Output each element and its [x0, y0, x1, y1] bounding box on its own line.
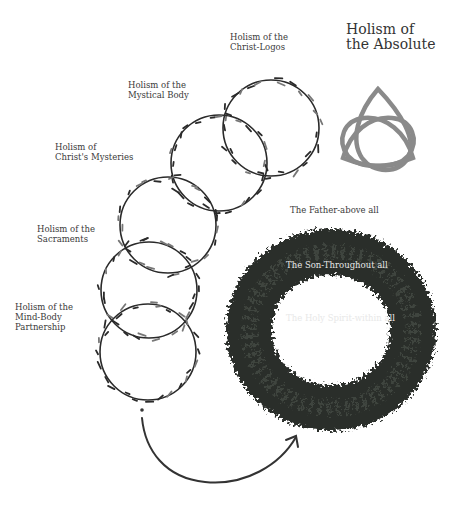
leaf — [230, 149, 232, 153]
leaf — [138, 333, 145, 336]
leaf — [299, 91, 302, 95]
leaf — [172, 189, 179, 193]
label-mind-body: Holism of the Mind-Body Partnership — [15, 302, 73, 332]
label-son: The Son-Throughout all — [286, 260, 388, 270]
curved-arrow-icon — [141, 409, 298, 482]
leaf — [98, 362, 101, 369]
vine-circle-sacraments — [98, 238, 200, 341]
leaf — [211, 117, 215, 118]
leaf — [320, 120, 322, 125]
evergreen-wreath — [249, 252, 413, 408]
leaf — [167, 310, 171, 312]
leaf — [96, 350, 98, 354]
leaf — [186, 320, 187, 324]
leaf — [113, 257, 114, 261]
leaf — [216, 116, 222, 117]
leaf — [119, 241, 123, 246]
leaf — [186, 376, 187, 381]
leaf — [104, 320, 105, 327]
vine-circle-mystical-body — [170, 113, 268, 213]
leaf — [125, 241, 129, 246]
vine-circle-christs-mysteries — [118, 175, 218, 277]
leaf — [203, 204, 209, 208]
leaf — [156, 306, 160, 307]
triquetra-icon — [342, 89, 413, 170]
leaf — [190, 303, 193, 309]
leaf — [143, 238, 148, 240]
label-sacraments: Holism of the Sacraments — [37, 224, 95, 244]
leaf — [175, 145, 177, 150]
label-father: The Father-above all — [290, 205, 379, 215]
leaf — [98, 285, 99, 289]
leaf — [181, 251, 186, 253]
title-holism-absolute: Holism of the Absolute — [346, 22, 435, 52]
leaf — [198, 349, 200, 353]
leaf — [133, 307, 137, 308]
leaf — [175, 175, 181, 176]
leaf — [264, 161, 265, 167]
leaf — [105, 332, 108, 335]
leaf — [266, 178, 271, 179]
leaf — [193, 294, 195, 298]
leaf — [279, 172, 284, 173]
leaf — [186, 266, 190, 268]
leaf — [224, 125, 225, 131]
leaf — [168, 275, 173, 277]
leaf — [226, 212, 231, 214]
leaf — [294, 170, 298, 176]
leaf — [128, 191, 129, 195]
leaf — [222, 147, 226, 151]
leaf — [192, 260, 198, 262]
leaf — [316, 133, 317, 137]
leaf — [217, 226, 218, 232]
leaf — [133, 399, 137, 401]
leaf — [216, 210, 217, 215]
label-christ-logos: Holism of the Christ-Logos — [230, 32, 288, 52]
leaf — [187, 370, 190, 373]
leaf — [194, 333, 198, 338]
leaf — [153, 339, 160, 341]
leaf — [173, 162, 174, 166]
label-mystical-body: Holism of the Mystical Body — [128, 80, 189, 100]
leaf — [215, 240, 216, 245]
leaf — [192, 186, 197, 187]
leaf — [196, 122, 201, 123]
leaf — [258, 172, 263, 173]
leaf — [183, 325, 185, 330]
vine-circle-christ-logos — [222, 78, 322, 179]
leaf — [151, 302, 157, 303]
leaf — [181, 132, 182, 137]
label-christs-mysteries: Holism of Christ's Mysteries — [55, 142, 133, 162]
label-holy-spirit: The Holy Spirit-within all — [286, 313, 395, 323]
leaf — [154, 181, 160, 182]
leaf — [196, 274, 199, 278]
leaf — [170, 149, 172, 153]
leaf — [240, 89, 242, 94]
leaf — [246, 172, 250, 173]
leaf — [278, 82, 285, 85]
diagram-canvas — [0, 0, 449, 505]
